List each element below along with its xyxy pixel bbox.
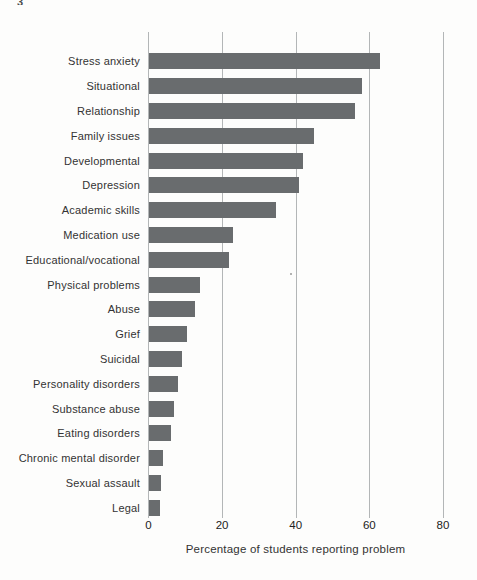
bar-row: Stress anxiety — [0, 49, 443, 74]
bar-row: Sexual assault — [0, 471, 443, 496]
bar-track — [149, 128, 444, 144]
category-label: Abuse — [0, 303, 140, 315]
category-label: Academic skills — [0, 204, 140, 216]
bar-row: Educational/vocational — [0, 247, 443, 272]
bar-row: Substance abuse — [0, 396, 443, 421]
bar — [149, 450, 164, 466]
bar-row: Legal — [0, 495, 443, 520]
bar-track — [149, 475, 444, 491]
category-label: Educational/vocational — [0, 254, 140, 266]
bar — [149, 277, 201, 293]
bar — [149, 475, 162, 491]
bar-row: Suicidal — [0, 347, 443, 372]
bar-track — [149, 425, 444, 441]
bar-track — [149, 401, 444, 417]
x-axis: 020406080 — [0, 519, 477, 533]
bar — [149, 425, 171, 441]
category-label: Personality disorders — [0, 378, 140, 390]
bar — [149, 78, 363, 94]
bar — [149, 252, 230, 268]
x-tick-label: 0 — [145, 519, 151, 531]
bar-track — [149, 177, 444, 193]
bar-track — [149, 53, 444, 69]
category-label: Substance abuse — [0, 403, 140, 415]
bar-track — [149, 252, 444, 268]
x-tick-label: 40 — [289, 519, 302, 531]
bar-track — [149, 351, 444, 367]
category-label: Stress anxiety — [0, 55, 140, 67]
category-label: Eating disorders — [0, 427, 140, 439]
bar-row: Abuse — [0, 297, 443, 322]
bar-row: Grief — [0, 322, 443, 347]
bar — [149, 202, 276, 218]
bar-track — [149, 277, 444, 293]
bar-row: Relationship — [0, 99, 443, 124]
bar-row: Eating disorders — [0, 421, 443, 446]
bar-rows: Stress anxietySituationalRelationshipFam… — [0, 49, 443, 520]
category-label: Medication use — [0, 229, 140, 241]
category-label: Physical problems — [0, 279, 140, 291]
bar-track — [149, 103, 444, 119]
bar-track — [149, 153, 444, 169]
bar — [149, 227, 234, 243]
bar — [149, 153, 304, 169]
category-label: Situational — [0, 80, 140, 92]
category-label: Suicidal — [0, 353, 140, 365]
bar — [149, 376, 178, 392]
category-label: Family issues — [0, 130, 140, 142]
category-label: Grief — [0, 328, 140, 340]
gridline-x-80 — [443, 32, 444, 518]
bar-track — [149, 202, 444, 218]
bar — [149, 301, 195, 317]
category-label: Relationship — [0, 105, 140, 117]
bar-track — [149, 500, 444, 516]
x-tick-label: 20 — [216, 519, 229, 531]
bar — [149, 401, 175, 417]
print-speck — [290, 273, 292, 275]
bar — [149, 103, 355, 119]
bar — [149, 128, 315, 144]
bar — [149, 500, 160, 516]
bar-row: Physical problems — [0, 272, 443, 297]
bar-row: Depression — [0, 173, 443, 198]
category-label: Sexual assault — [0, 477, 140, 489]
category-label: Depression — [0, 179, 140, 191]
bar — [149, 326, 188, 342]
bar-row: Personality disorders — [0, 371, 443, 396]
category-label: Developmental — [0, 155, 140, 167]
bar — [149, 53, 381, 69]
x-tick-label: 80 — [437, 519, 450, 531]
bar-row: Developmental — [0, 148, 443, 173]
bar — [149, 177, 300, 193]
bar-row: Academic skills — [0, 198, 443, 223]
bar-track — [149, 301, 444, 317]
category-label: Legal — [0, 502, 140, 514]
category-label: Chronic mental disorder — [0, 452, 140, 464]
x-axis-title: Percentage of students reporting problem — [148, 543, 443, 555]
bar-track — [149, 376, 444, 392]
bar-row: Family issues — [0, 123, 443, 148]
bar-track — [149, 450, 444, 466]
x-tick-label: 60 — [363, 519, 376, 531]
bar-track — [149, 326, 444, 342]
bar-track — [149, 78, 444, 94]
bar-row: Medication use — [0, 223, 443, 248]
bar-chart: Stress anxietySituationalRelationshipFam… — [0, 0, 477, 580]
bar-row: Situational — [0, 74, 443, 99]
bar — [149, 351, 182, 367]
bar-row: Chronic mental disorder — [0, 446, 443, 471]
figure-page: 3 Stress anxietySituationalRelationshipF… — [0, 0, 477, 580]
bar-track — [149, 227, 444, 243]
